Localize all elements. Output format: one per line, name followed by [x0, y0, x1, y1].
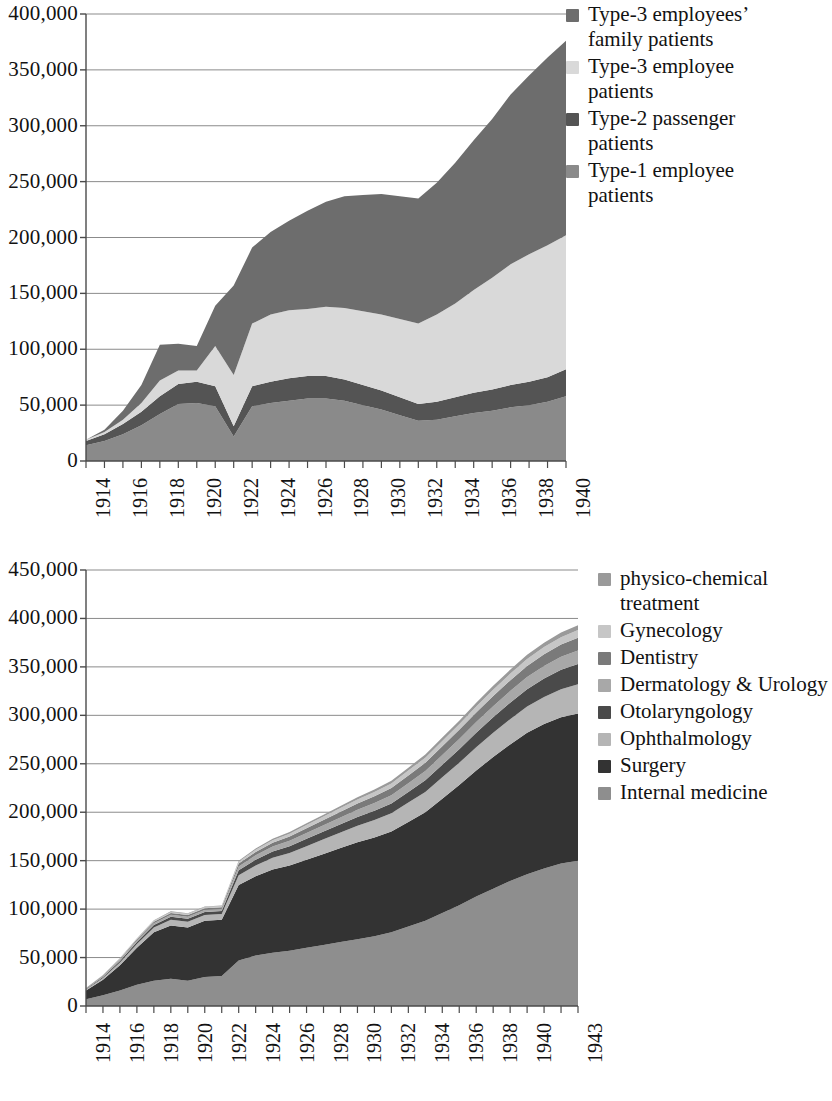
legend-swatch-icon: [598, 787, 611, 800]
x-axis-tick-label: 1926: [297, 1023, 317, 1063]
legend-swatch-icon: [598, 625, 611, 638]
legend-swatch-icon: [598, 679, 611, 692]
legend-item-label: Dermatology & Urology: [620, 672, 828, 697]
y-axis-tick-label: 300,000: [0, 704, 78, 725]
legend-item-label: Type-2 passenger patients: [588, 106, 735, 156]
x-axis-tick-label: 1914: [93, 478, 113, 518]
stacked-areas: [86, 41, 566, 461]
legend-item-label: physico-chemical treatment: [620, 566, 768, 616]
y-axis-tick-label: 400,000: [0, 607, 78, 628]
y-axis-tick-label: 150,000: [0, 282, 78, 303]
legend-item[interactable]: physico-chemical treatment: [598, 566, 828, 616]
x-axis-tick-label: 1916: [130, 478, 150, 518]
x-axis-tick-label: 1924: [278, 478, 298, 518]
y-ticks: [80, 14, 86, 461]
y-axis-tick-label: 50,000: [0, 394, 78, 415]
legend-item[interactable]: Type-3 employee patients: [566, 54, 749, 104]
x-axis-tick-label: 1930: [364, 1023, 384, 1063]
legend-swatch-icon: [598, 652, 611, 665]
chart-patients-by-type: Type-3 employees’ family patientsType-3 …: [0, 0, 832, 540]
legend-item-label: Dentistry: [620, 645, 698, 670]
x-axis-tick-label: 1920: [195, 1023, 215, 1063]
legend-item[interactable]: Dermatology & Urology: [598, 672, 828, 697]
y-axis-tick-label: 200,000: [0, 801, 78, 822]
legend-item[interactable]: Type-1 employee patients: [566, 158, 749, 208]
legend-item-label: Type-1 employee patients: [588, 158, 734, 208]
y-axis-tick-label: 400,000: [0, 3, 78, 24]
legend-item-label: Otolaryngology: [620, 699, 753, 724]
legend-item[interactable]: Otolaryngology: [598, 699, 828, 724]
x-axis-tick-label: 1934: [432, 1023, 452, 1063]
x-axis-tick-label: 1930: [388, 478, 408, 518]
x-axis-tick-label: 1922: [241, 478, 261, 518]
stacked-areas: [86, 625, 578, 1006]
x-axis-tick-label: 1922: [229, 1023, 249, 1063]
x-axis-tick-label: 1934: [462, 478, 482, 518]
x-axis-tick-label: 1938: [536, 478, 556, 518]
y-axis-tick-label: 50,000: [0, 947, 78, 968]
y-axis-tick-label: 250,000: [0, 753, 78, 774]
x-axis-tick-label: 1928: [331, 1023, 351, 1063]
y-ticks: [80, 570, 86, 1006]
x-axis-tick-label: 1936: [466, 1023, 486, 1063]
legend-item[interactable]: Internal medicine: [598, 780, 828, 805]
x-axis-tick-label: 1940: [573, 478, 593, 518]
legend-swatch-icon: [598, 706, 611, 719]
x-axis-tick-label: 1938: [500, 1023, 520, 1063]
legend-item-label: Type-3 employee patients: [588, 54, 734, 104]
legend-swatch-icon: [566, 165, 579, 178]
x-axis-tick-label: 1916: [127, 1023, 147, 1063]
legend-swatch-icon: [566, 113, 579, 126]
y-axis-tick-label: 250,000: [0, 171, 78, 192]
y-axis-tick-label: 350,000: [0, 59, 78, 80]
legend-swatch-icon: [566, 9, 579, 22]
x-axis-tick-label: 1940: [534, 1023, 554, 1063]
y-axis-tick-label: 350,000: [0, 656, 78, 677]
x-axis-tick-label: 1926: [315, 478, 335, 518]
legend-item[interactable]: Ophthalmology: [598, 726, 828, 751]
x-axis-tick-label: 1932: [398, 1023, 418, 1063]
legend-item[interactable]: Surgery: [598, 753, 828, 778]
x-axis-tick-label: 1918: [167, 478, 187, 518]
legend-item-label: Type-3 employees’ family patients: [588, 2, 749, 52]
legend-swatch-icon: [598, 573, 611, 586]
x-ticks: [86, 461, 566, 468]
x-axis-tick-label: 1920: [204, 478, 224, 518]
x-axis-tick-label: 1936: [499, 478, 519, 518]
x-axis-tick-label: 1924: [263, 1023, 283, 1063]
x-axis-tick-label: 1932: [425, 478, 445, 518]
legend-item[interactable]: Dentistry: [598, 645, 828, 670]
x-axis-tick-label: 1914: [93, 1023, 113, 1063]
legend-item[interactable]: Type-2 passenger patients: [566, 106, 749, 156]
y-axis-tick-label: 100,000: [0, 898, 78, 919]
x-axis-tick-label: 1943: [585, 1023, 605, 1063]
x-axis-tick-label: 1928: [351, 478, 371, 518]
legend-swatch-icon: [566, 61, 579, 74]
chart-patients-by-department: physico-chemical treatmentGynecologyDent…: [0, 548, 832, 1101]
y-axis-tick-label: 0: [0, 995, 78, 1016]
legend-swatch-icon: [598, 733, 611, 746]
y-axis-tick-label: 150,000: [0, 850, 78, 871]
legend-item[interactable]: Gynecology: [598, 618, 828, 643]
legend-item-label: Internal medicine: [620, 780, 768, 805]
chart-2-legend: physico-chemical treatmentGynecologyDent…: [598, 566, 828, 807]
y-axis-tick-label: 300,000: [0, 115, 78, 136]
x-axis-tick-label: 1918: [161, 1023, 181, 1063]
legend-item-label: Gynecology: [620, 618, 723, 643]
y-axis-tick-label: 200,000: [0, 227, 78, 248]
y-axis-tick-label: 450,000: [0, 559, 78, 580]
legend-item-label: Surgery: [620, 753, 686, 778]
legend-swatch-icon: [598, 760, 611, 773]
chart-1-legend: Type-3 employees’ family patientsType-3 …: [566, 2, 749, 210]
legend-item-label: Ophthalmology: [620, 726, 752, 751]
legend-item[interactable]: Type-3 employees’ family patients: [566, 2, 749, 52]
y-axis-tick-label: 100,000: [0, 338, 78, 359]
x-ticks: [86, 1006, 578, 1013]
y-axis-tick-label: 0: [0, 450, 78, 471]
